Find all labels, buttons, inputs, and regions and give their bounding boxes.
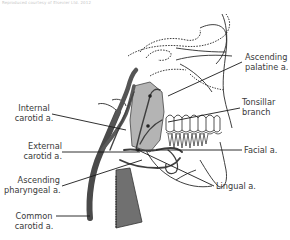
label-lingual-artery: Lingual a. bbox=[216, 181, 256, 191]
skull-outline bbox=[98, 14, 232, 187]
label-ascending-pharyngeal: Ascending pharyngeal a. bbox=[4, 175, 60, 195]
label-internal-carotid: Internal carotid a. bbox=[14, 103, 54, 123]
larynx-region bbox=[116, 168, 142, 228]
common-carotid-artery bbox=[89, 112, 118, 218]
label-ascending-palatine: Ascending palatine a. bbox=[245, 52, 288, 72]
label-external-carotid: External carotid a. bbox=[18, 141, 62, 161]
lower-teeth-roots bbox=[166, 132, 222, 148]
label-tonsillar-branch: Tonsillar branch bbox=[242, 97, 275, 117]
label-common-carotid: Common carotid a. bbox=[14, 211, 54, 231]
pharynx-region bbox=[130, 82, 164, 152]
label-facial-artery: Facial a. bbox=[244, 145, 277, 155]
lingual-artery bbox=[120, 158, 180, 168]
